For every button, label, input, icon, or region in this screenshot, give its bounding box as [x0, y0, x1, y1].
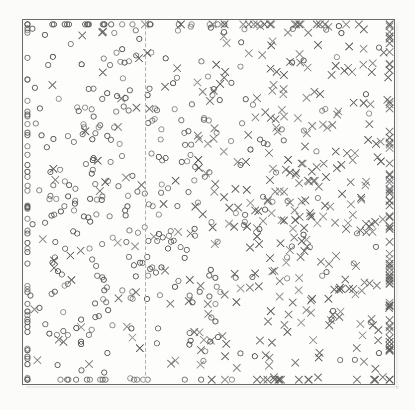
frame-shadow-right: [396, 23, 399, 389]
frame-shadow-bottom: [26, 386, 399, 389]
plot-frame: [22, 19, 395, 385]
scatter-plot-canvas: [23, 20, 394, 384]
scatter-plot-figure: [0, 0, 415, 410]
